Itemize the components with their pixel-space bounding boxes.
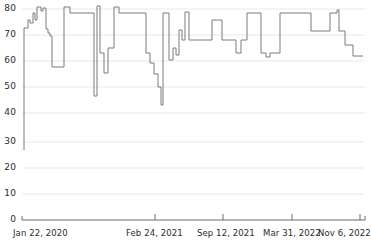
x-tick-label-2: Sep 12, 2021	[197, 229, 255, 238]
x-tick-label-1: Feb 24, 2021	[126, 229, 183, 238]
x-tick-label-0: Jan 22, 2020	[13, 229, 68, 238]
y-tick-label-80: 80	[0, 4, 16, 13]
y-tick-label-60: 60	[0, 56, 16, 65]
x-tick-label-3: Mar 31, 2022	[263, 229, 321, 238]
chart-container: 80 70 60 50 40 30 20 10 0 Jan 22, 2020 F…	[0, 0, 371, 249]
x-axis	[22, 214, 365, 220]
y-tick-label-20: 20	[0, 163, 16, 172]
y-tick-label-40: 40	[0, 108, 16, 117]
series-value-line	[24, 6, 363, 150]
x-tick-label-4: Nov 6, 2022	[318, 229, 371, 238]
timeseries-step-chart	[0, 0, 371, 249]
y-tick-label-70: 70	[0, 30, 16, 39]
y-tick-label-10: 10	[0, 189, 16, 198]
gridlines	[22, 9, 365, 194]
y-tick-label-50: 50	[0, 82, 16, 91]
y-tick-label-30: 30	[0, 137, 16, 146]
y-tick-label-0: 0	[0, 215, 16, 224]
